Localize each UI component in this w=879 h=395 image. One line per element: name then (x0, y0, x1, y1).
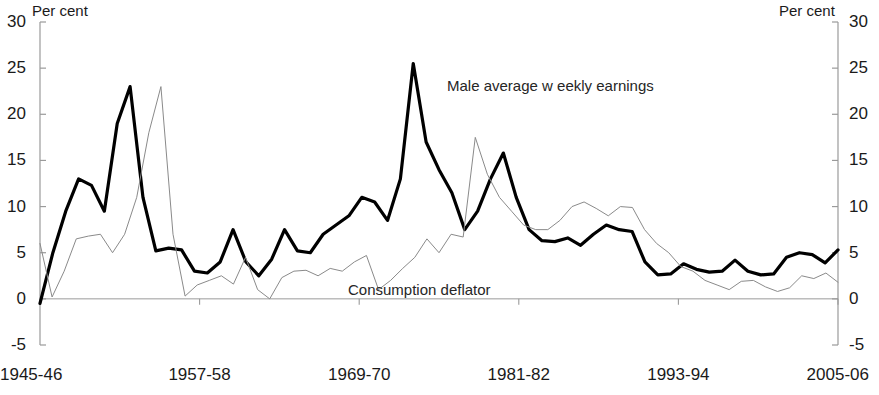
x-axis-label-5: 2005-06 (774, 365, 869, 385)
x-axis-label-0: 1945-46 (0, 365, 95, 385)
chart-container: 30 25 20 15 10 5 0 -5 30 25 20 15 10 5 0… (0, 0, 879, 395)
y-axis-label-left-0: 30 (0, 12, 26, 32)
y-axis-label-right-3: 15 (849, 150, 879, 170)
series-line-consumption-deflator (40, 87, 838, 299)
y-axis-unit-right: Per cent (779, 2, 835, 19)
series-annotation-deflator: Consumption deflator (348, 281, 491, 298)
y-axis-label-right-7: -5 (849, 335, 879, 355)
x-axis-label-2: 1969-70 (314, 365, 404, 385)
y-axis-label-right-2: 20 (849, 104, 879, 124)
y-axis-label-left-2: 20 (0, 104, 26, 124)
y-axis-unit-left: Per cent (32, 2, 88, 19)
y-axis-label-left-4: 10 (0, 197, 26, 217)
series-layer (40, 64, 838, 304)
series-annotation-earnings: Male average w eekly earnings (447, 77, 654, 94)
y-axis-label-left-3: 15 (0, 150, 26, 170)
chart-plot-area (0, 0, 879, 395)
y-axis-label-left-1: 25 (0, 58, 26, 78)
y-axis-label-right-6: 0 (849, 289, 879, 309)
x-axis-label-1: 1957-58 (155, 365, 245, 385)
y-axis-label-left-5: 5 (0, 243, 26, 263)
x-axis-label-3: 1981-82 (474, 365, 564, 385)
series-line-male-average-weekly-earnings (40, 64, 838, 304)
y-axis-label-left-7: -5 (0, 335, 26, 355)
y-axis-label-right-1: 25 (849, 58, 879, 78)
y-axis-label-right-5: 5 (849, 243, 879, 263)
y-axis-label-right-4: 10 (849, 197, 879, 217)
x-axis-label-4: 1993-94 (633, 365, 723, 385)
y-axis-label-right-0: 30 (849, 12, 879, 32)
y-axis-label-left-6: 0 (0, 289, 26, 309)
